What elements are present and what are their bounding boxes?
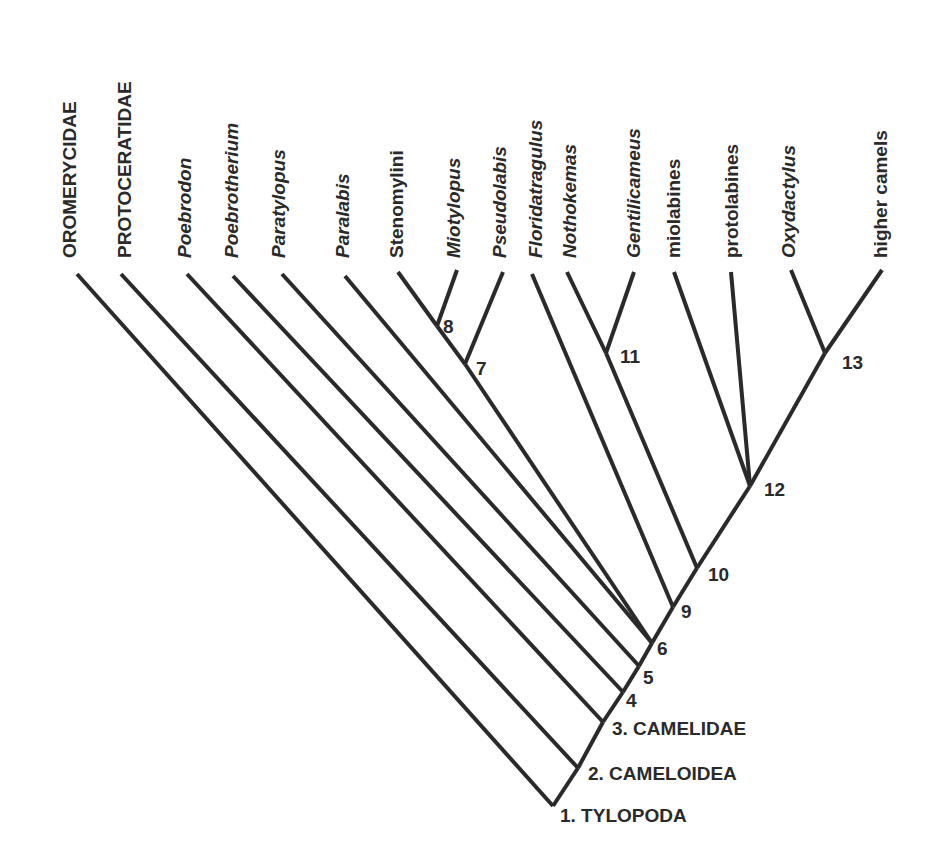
taxon-label-poebrotherium: Poebrotherium	[221, 123, 242, 258]
cladogram: OROMERYCIDAEPROTOCERATIDAEPoebrodonPoebr…	[0, 0, 946, 868]
node-label-4: 4	[626, 690, 637, 711]
taxon-label-protolabines: protolabines	[721, 144, 742, 258]
taxon-label-higher-camels: higher camels	[870, 130, 891, 258]
taxon-label-miotylopus: Miotylopus	[443, 158, 464, 258]
internal-branch	[606, 353, 697, 568]
branch-poebrodon	[187, 274, 603, 722]
internal-branch	[578, 722, 603, 768]
internal-branch	[623, 666, 639, 692]
taxon-label-oxydactylus: Oxydactylus	[778, 145, 799, 258]
taxon-label-floridatragulus: Floridatragulus	[525, 120, 546, 258]
taxon-label-poebrodon: Poebrodon	[174, 158, 195, 258]
branch-pseudolabis	[465, 272, 503, 364]
node-label-13: 13	[842, 352, 863, 373]
branch-paratylopus	[282, 274, 639, 666]
branch-paralabis	[345, 276, 652, 643]
branch-higher-camels	[825, 270, 882, 353]
node-labels: 1. TYLOPODA2. CAMELOIDEA3. CAMELIDAE4567…	[443, 316, 863, 826]
taxon-labels: OROMERYCIDAEPROTOCERATIDAEPoebrodonPoebr…	[59, 81, 891, 258]
branch-poebrotherium	[233, 276, 623, 692]
node-label-12: 12	[764, 479, 785, 500]
node-label-11: 11	[620, 346, 641, 367]
node-label-10: 10	[708, 564, 729, 585]
node-label-6: 6	[657, 638, 668, 659]
taxon-label-nothokemas: Nothokemas	[559, 144, 580, 258]
node-label-8: 8	[443, 316, 454, 337]
taxon-label-pseudolabis: Pseudolabis	[489, 146, 510, 258]
taxon-branches	[77, 270, 882, 806]
node-label-1: 1. TYLOPODA	[560, 805, 687, 826]
branch-floridatragulus	[532, 274, 673, 607]
node-label-3: 3. CAMELIDAE	[612, 718, 746, 739]
taxon-label-protoceratidae: PROTOCERATIDAE	[114, 81, 135, 258]
node-label-7: 7	[476, 358, 487, 379]
node-label-9: 9	[681, 601, 692, 622]
taxon-label-oromerycidae: OROMERYCIDAE	[59, 101, 80, 258]
internal-branch	[639, 643, 652, 666]
taxon-label-miolabines: miolabines	[663, 159, 684, 258]
taxon-label-paratylopus: Paratylopus	[268, 149, 289, 258]
branch-oxydactylus	[791, 270, 825, 353]
taxon-label-paralabis: Paralabis	[332, 174, 353, 259]
branch-gentilicameus	[606, 272, 634, 353]
branch-nothokemas	[567, 272, 606, 353]
internal-branch	[553, 768, 578, 806]
taxon-label-stenomylini: Stenomylini	[386, 150, 407, 258]
branch-stenomylini	[398, 272, 437, 326]
node-label-2: 2. CAMELOIDEA	[588, 763, 737, 784]
internal-branch	[697, 486, 750, 568]
taxon-label-gentilicameus: Gentilicameus	[623, 128, 644, 258]
internal-branch	[750, 353, 825, 486]
node-label-5: 5	[643, 667, 654, 688]
